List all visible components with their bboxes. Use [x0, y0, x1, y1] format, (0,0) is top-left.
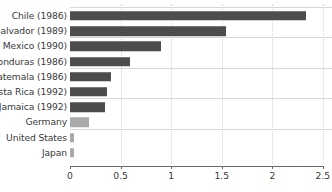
bar-japan	[70, 148, 74, 158]
x-axis-tick	[70, 166, 71, 169]
bar-guatemala	[70, 72, 111, 82]
category-label: Japan	[42, 148, 67, 157]
bar-united-states	[70, 133, 74, 143]
category-label: Jamaica (1992)	[0, 103, 67, 112]
x-axis-line	[70, 166, 323, 167]
x-tick-label: 2.5	[316, 171, 331, 180]
bar-row: Costa Rica (1992)	[70, 84, 323, 99]
x-tick-label: 0.5	[113, 171, 128, 180]
bar-mexico	[70, 42, 161, 52]
category-label: Mexico (1990)	[3, 42, 67, 51]
bar-honduras	[70, 57, 130, 67]
bar-row: Jamaica (1992)	[70, 100, 323, 115]
bar-row: Guatemala (1986)	[70, 69, 323, 84]
category-label: Honduras (1986)	[0, 57, 67, 66]
bar-chart: Chile (1986) El Salvador (1989) Mexico (…	[0, 0, 332, 192]
bar-germany	[70, 118, 89, 128]
bar-row: Germany	[70, 115, 323, 130]
x-axis-tick	[222, 166, 223, 169]
bar-row: Honduras (1986)	[70, 54, 323, 69]
x-tick-label: 2	[269, 171, 275, 180]
x-axis-tick	[171, 166, 172, 169]
category-label: Costa Rica (1992)	[0, 87, 67, 96]
bar-chile	[70, 11, 306, 21]
vertical-gridline	[323, 4, 325, 164]
x-axis-tick	[272, 166, 273, 169]
x-axis-tick	[121, 166, 122, 169]
x-axis-tick	[323, 166, 324, 169]
bar-costa-rica	[70, 87, 107, 97]
bar-row: Mexico (1990)	[70, 39, 323, 54]
bar-row: United States	[70, 130, 323, 145]
bar-row: Japan	[70, 145, 323, 160]
category-label: Chile (1986)	[12, 11, 67, 20]
bar-jamaica	[70, 102, 105, 112]
bar-row: Chile (1986)	[70, 8, 323, 23]
plot-area: Chile (1986) El Salvador (1989) Mexico (…	[70, 4, 323, 164]
category-label: El Salvador (1989)	[0, 27, 67, 36]
x-tick-label: 1.5	[214, 171, 229, 180]
category-label: United States	[6, 133, 67, 142]
category-label: Germany	[25, 118, 67, 127]
bar-el-salvador	[70, 26, 226, 36]
x-tick-label: 1	[168, 171, 174, 180]
x-tick-label: 0	[67, 171, 73, 180]
category-label: Guatemala (1986)	[0, 72, 67, 81]
bar-row: El Salvador (1989)	[70, 24, 323, 39]
